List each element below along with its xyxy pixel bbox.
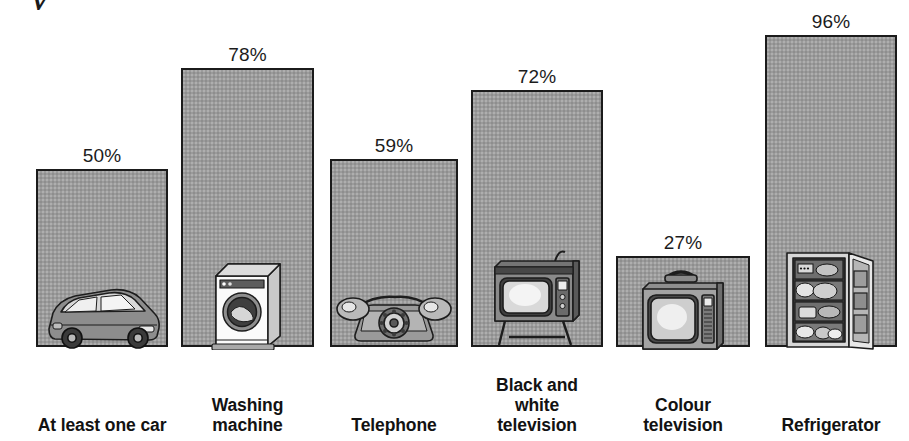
bar-washing-machine[interactable]: 78% <box>181 68 314 347</box>
bar-refrigerator[interactable]: 96% <box>765 35 897 347</box>
bar-value-label: 96% <box>767 11 895 33</box>
telephone-icon <box>335 285 453 347</box>
bar-value-label: 50% <box>38 145 166 167</box>
bar-colour-television[interactable]: 27% <box>616 256 750 347</box>
category-label-washing-machine: Washing machine <box>165 395 330 435</box>
category-label-refrigerator: Refrigerator <box>749 415 909 435</box>
bar-chart-plot-area: 50% <box>0 0 909 441</box>
bar-group-telephone: 59% <box>330 0 458 441</box>
category-label-telephone: Telephone <box>314 415 474 435</box>
bar-at-least-one-car[interactable]: 50% <box>36 169 168 347</box>
car-icon <box>39 279 165 351</box>
category-label-bw-television: Black and white television <box>455 375 619 435</box>
category-label-colour-television: Colour television <box>600 395 766 435</box>
bar-value-label: 72% <box>473 66 601 88</box>
bar-value-label: 78% <box>183 44 312 66</box>
colour-television-icon <box>635 265 731 353</box>
bar-group-bw-television: 72% <box>471 0 603 441</box>
bar-black-and-white-television[interactable]: 72% <box>471 90 603 347</box>
category-label-car: At least one car <box>20 415 184 435</box>
refrigerator-icon <box>775 247 887 351</box>
bar-group-refrigerator: 96% <box>765 0 897 441</box>
bar-group-car: 50% <box>36 0 168 441</box>
bar-group-colour-television: 27% <box>616 0 750 441</box>
bar-value-label: 27% <box>618 232 748 254</box>
washing-machine-icon <box>208 254 288 350</box>
black-and-white-television-icon <box>485 245 589 349</box>
bar-value-label: 59% <box>332 135 456 157</box>
bar-group-washing-machine: 78% <box>181 0 314 441</box>
bar-telephone[interactable]: 59% <box>330 159 458 347</box>
